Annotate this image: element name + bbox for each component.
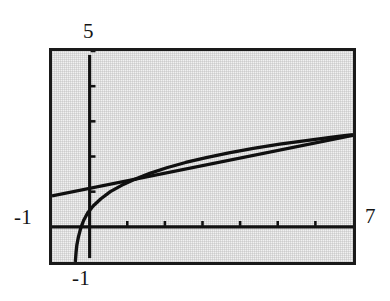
series-straight-line	[52, 135, 353, 195]
y-axis-min-label: -1	[72, 268, 90, 289]
plot-frame	[49, 48, 356, 265]
x-axis-ticks	[127, 221, 315, 226]
plot-canvas	[52, 51, 353, 262]
plot-figure: 5 -1 -1 7	[0, 0, 390, 301]
y-axis-max-label: 5	[83, 21, 94, 42]
axes-group	[52, 51, 353, 258]
x-axis-min-label: -1	[14, 207, 32, 228]
series-logarithmic-curve	[75, 135, 353, 262]
y-axis-ticks	[91, 51, 96, 192]
x-axis-max-label: 7	[365, 206, 376, 227]
series-group	[52, 135, 353, 262]
